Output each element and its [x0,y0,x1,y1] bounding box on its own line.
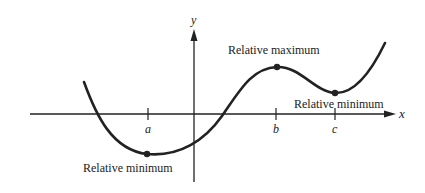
tick-label-b: b [273,122,279,136]
y-axis-label: y [190,13,197,27]
relative-minimum-point-a [144,151,150,157]
annotation-relative-minimum-a: Relative minimum [83,161,173,175]
annotation-relative-minimum-c: Relative minimum [294,97,384,111]
y-axis-arrow-icon [191,29,198,41]
tick-label-c: c [332,122,338,136]
relative-minimum-point-c [332,90,338,96]
tick-label-a: a [145,122,151,136]
x-axis-arrow-icon [384,111,396,118]
relative-maximum-point-b [274,64,280,70]
x-axis-label: x [398,106,405,121]
function-graph: x y a b c Relative minimum Relative maxi… [0,0,425,193]
annotation-relative-maximum-b: Relative maximum [228,43,320,57]
